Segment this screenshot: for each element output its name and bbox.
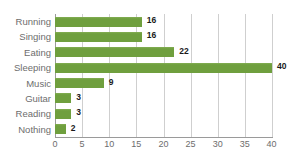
x-tick-label: 40 — [266, 139, 276, 149]
bar — [55, 47, 174, 57]
bar — [55, 78, 104, 88]
category-label: Eating — [0, 45, 51, 60]
bar-value-label: 2 — [71, 123, 76, 134]
bar-row: 2 — [55, 122, 272, 137]
category-label: Nothing — [0, 122, 51, 137]
bar — [55, 124, 66, 134]
category-label: Guitar — [0, 91, 51, 106]
category-label: Reading — [0, 106, 51, 121]
bar — [55, 93, 71, 103]
x-tick-label: 35 — [240, 139, 250, 149]
x-tick-label: 5 — [80, 139, 85, 149]
plot-area: 16 16 22 40 9 3 3 2 — [55, 14, 272, 137]
bar-value-label: 22 — [179, 46, 188, 57]
bar-row: 40 — [55, 60, 272, 75]
bar-row: 9 — [55, 76, 272, 91]
x-tick-label: 0 — [52, 139, 57, 149]
category-label: Singing — [0, 29, 51, 44]
category-label: Running — [0, 14, 51, 29]
bar-row: 3 — [55, 106, 272, 121]
bar-row: 22 — [55, 45, 272, 60]
bar-value-label: 9 — [109, 77, 114, 88]
x-tick-label: 15 — [131, 139, 141, 149]
x-axis-line — [55, 137, 273, 138]
bar — [55, 32, 142, 42]
bar-value-label: 40 — [277, 61, 286, 72]
bar-value-label: 16 — [147, 30, 156, 41]
x-tick-label: 10 — [104, 139, 114, 149]
bar-value-label: 3 — [76, 107, 81, 118]
bar — [55, 63, 272, 73]
bar-chart: Running Singing Eating Sleeping Music Gu… — [0, 0, 296, 161]
category-label: Sleeping — [0, 60, 51, 75]
y-axis-category-labels: Running Singing Eating Sleeping Music Gu… — [0, 14, 51, 137]
bar — [55, 109, 71, 119]
bar-row: 16 — [55, 29, 272, 44]
x-axis-tick-labels: 0 5 10 15 20 25 30 35 40 — [55, 139, 272, 153]
bar-row: 16 — [55, 14, 272, 29]
bar-row: 3 — [55, 91, 272, 106]
bar-value-label: 16 — [147, 15, 156, 26]
x-tick-label: 20 — [158, 139, 168, 149]
category-label: Music — [0, 76, 51, 91]
bar — [55, 17, 142, 27]
bar-value-label: 3 — [76, 92, 81, 103]
x-tick-label: 30 — [213, 139, 223, 149]
x-tick-label: 25 — [186, 139, 196, 149]
